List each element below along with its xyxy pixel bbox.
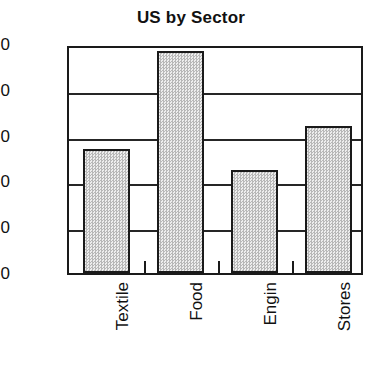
x-tick-mark (144, 261, 146, 273)
x-tick-label: Food (188, 282, 206, 372)
y-tick-label: 10.0 (0, 35, 10, 55)
x-tick-mark (218, 261, 220, 273)
plot-area (67, 46, 363, 275)
bar[interactable] (231, 170, 278, 273)
bar[interactable] (157, 51, 204, 273)
y-tick-label: 8.0 (0, 81, 10, 101)
x-tick-label: Textile (114, 282, 132, 372)
x-tick-label: Stores (336, 282, 354, 372)
y-tick-label: 0.0 (0, 264, 10, 284)
bar-chart-figure: US by Sector 10.08.06.04.02.00.0 Textile… (0, 0, 382, 373)
gridline (69, 93, 361, 95)
x-tick-mark (292, 261, 294, 273)
x-tick-label: Engin (262, 282, 280, 372)
bar[interactable] (305, 126, 352, 273)
y-tick-label: 6.0 (0, 127, 10, 147)
y-tick-label: 2.0 (0, 218, 10, 238)
y-tick-label: 4.0 (0, 172, 10, 192)
chart-title: US by Sector (0, 8, 382, 28)
bar[interactable] (83, 149, 130, 273)
